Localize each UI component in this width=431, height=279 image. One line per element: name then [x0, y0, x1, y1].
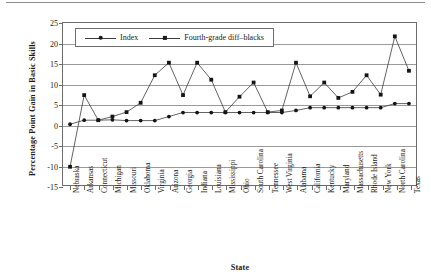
x-axis-tick-label: Louisiana	[214, 164, 223, 193]
data-point-marker	[407, 102, 411, 106]
data-point-marker	[181, 93, 185, 97]
data-point-marker	[280, 109, 284, 113]
y-axis-tick-label: -15	[24, 183, 58, 192]
data-point-marker	[351, 106, 355, 110]
chart-figure: Percentage Point Gain in Basic Skills St…	[0, 0, 431, 279]
data-point-marker	[153, 119, 157, 123]
data-point-marker	[167, 61, 171, 65]
x-axis-tick-label: Ohio	[242, 178, 251, 193]
chart-legend: Index Fourth-grade diff–blacks	[75, 28, 274, 47]
x-axis-tick-label: Alabama	[299, 167, 308, 193]
data-point-marker	[336, 96, 340, 100]
x-axis-tick-mark	[70, 185, 71, 190]
x-axis-tick-label: California	[313, 163, 322, 193]
data-point-marker	[266, 110, 270, 114]
x-axis-tick-label: Kentucky	[327, 165, 336, 193]
data-point-marker	[252, 81, 256, 85]
data-point-marker	[181, 111, 185, 115]
x-axis-tick-label: Massachusetts	[356, 151, 365, 193]
diamond-marker-icon	[85, 34, 116, 42]
data-point-marker	[322, 81, 326, 85]
x-axis-tick-mark	[354, 185, 355, 190]
y-axis-tick-label: 10	[24, 80, 58, 89]
data-point-marker	[111, 115, 115, 119]
x-axis-tick-mark	[212, 185, 213, 190]
y-axis-tick-label: 0	[24, 121, 58, 130]
data-point-marker	[238, 111, 242, 115]
data-point-marker	[379, 106, 383, 110]
x-axis-tick-label: Indiana	[200, 171, 209, 193]
x-axis-tick-label: Virginia	[157, 169, 166, 193]
series-fourth-grade-diff-blacks	[68, 34, 411, 168]
x-axis-tick-mark	[127, 185, 128, 190]
data-point-marker	[238, 95, 242, 99]
x-axis-tick-label: Texas	[413, 176, 422, 193]
data-point-marker	[308, 106, 312, 110]
data-point-marker	[294, 109, 298, 113]
data-point-marker	[195, 61, 199, 65]
legend-label-fourth-grade-diff-blacks: Fourth-grade diff–blacks	[184, 33, 264, 42]
data-point-marker	[68, 122, 72, 126]
legend-entry-index: Index	[85, 33, 138, 42]
x-axis-tick-label: Michigan	[114, 165, 123, 193]
data-point-marker	[322, 106, 326, 110]
data-point-marker	[167, 115, 171, 119]
x-axis-tick-mark	[283, 185, 284, 190]
data-point-marker	[393, 34, 397, 38]
data-point-marker	[336, 106, 340, 110]
data-point-marker	[96, 118, 100, 122]
x-axis-tick-label: Mississippi	[228, 160, 237, 193]
y-axis-tick-label: -5	[24, 142, 58, 151]
data-point-marker	[111, 118, 115, 122]
data-point-marker	[125, 119, 129, 123]
data-point-marker	[223, 110, 227, 114]
y-axis-tick-label: 25	[24, 19, 58, 28]
x-axis-tick-label: Rhode Island	[370, 154, 379, 193]
data-point-marker	[139, 119, 143, 123]
x-axis-tick-label: Tennessee	[271, 163, 280, 193]
legend-entry-fourth-grade-diff-blacks: Fourth-grade diff–blacks	[149, 33, 264, 42]
x-axis-tick-label: Arizona	[171, 169, 180, 193]
x-axis-tick-label: Missouri	[129, 167, 138, 193]
x-axis-tick-label: New York	[384, 163, 393, 193]
data-point-marker	[379, 93, 383, 97]
x-axis-tick-label: West Virginia	[285, 153, 294, 193]
square-marker-icon	[149, 34, 180, 42]
data-point-marker	[209, 111, 213, 115]
x-axis-tick-mark	[340, 185, 341, 190]
data-point-marker	[308, 94, 312, 98]
x-axis-tick-label: Georgia	[185, 170, 194, 193]
data-point-marker	[365, 106, 369, 110]
data-point-marker	[82, 93, 86, 97]
x-axis-tick-label: Maryland	[342, 165, 351, 193]
series-line	[70, 36, 409, 166]
data-point-marker	[139, 101, 143, 105]
legend-label-index: Index	[120, 33, 138, 42]
y-axis-tick-label: 20	[24, 39, 58, 48]
x-axis-tick-label: Oklahoma	[143, 163, 152, 193]
x-axis-tick-label: South Carolina	[256, 149, 265, 193]
x-axis-tick-mark	[411, 185, 412, 190]
x-axis-tick-mark	[269, 185, 270, 190]
data-point-marker	[252, 111, 256, 115]
x-axis-tick-mark	[141, 185, 142, 190]
data-point-marker	[407, 69, 411, 73]
y-axis-tick-mark	[59, 187, 63, 188]
x-axis-tick-mark	[198, 185, 199, 190]
data-point-marker	[393, 102, 397, 106]
data-point-marker	[294, 61, 298, 65]
data-point-marker	[365, 73, 369, 77]
x-axis-tick-label: Arkansas	[86, 166, 95, 193]
x-axis-tick-label: North Carolina	[398, 149, 407, 193]
data-point-marker	[125, 110, 129, 114]
data-point-marker	[351, 90, 355, 94]
y-axis-tick-label: 5	[24, 101, 58, 110]
y-axis-tick-label: 15	[24, 60, 58, 69]
x-axis-tick-label: Nebraska	[72, 165, 81, 193]
x-axis-title: State	[62, 263, 418, 272]
data-point-marker	[82, 118, 86, 122]
data-point-marker	[195, 111, 199, 115]
data-point-marker	[209, 78, 213, 82]
data-point-marker	[153, 73, 157, 77]
y-axis-tick-label: -10	[24, 162, 58, 171]
